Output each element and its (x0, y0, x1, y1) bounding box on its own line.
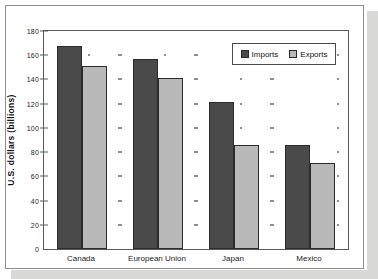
x-axis-tick-label-european-union: European Union (128, 254, 186, 263)
grid-dot (118, 54, 120, 56)
legend-label-exports: Exports (300, 50, 327, 59)
grid-dot (196, 54, 198, 56)
grid-dot (337, 175, 339, 177)
grid-dot (164, 54, 166, 56)
grid-dot (240, 78, 242, 80)
grid-dot (337, 54, 339, 56)
grid-dot (194, 151, 196, 153)
y-axis-tick-mark (40, 127, 48, 128)
grid-dot (118, 127, 120, 129)
y-axis-tick-label: 0 (35, 246, 44, 253)
grid-dot (240, 127, 242, 129)
grid-dot (272, 78, 274, 80)
legend-item-exports: Exports (289, 50, 327, 59)
grid-dot (120, 224, 122, 226)
grid-dot (120, 175, 122, 177)
grid-dot (196, 127, 198, 129)
legend-swatch-exports-icon (289, 50, 297, 58)
y-axis-tick-mark (40, 152, 48, 153)
grid-dot (270, 200, 272, 202)
grid-dot (270, 151, 272, 153)
grid-dot (337, 200, 339, 202)
x-axis-tick-label-mexico: Mexico (296, 254, 321, 263)
bar-mexico-exports (310, 163, 335, 249)
bar-european-union-imports (133, 59, 158, 249)
y-axis-tick-mark (40, 55, 48, 56)
grid-dot (272, 103, 274, 105)
grid-dot (337, 103, 339, 105)
grid-dot (118, 103, 120, 105)
bar-japan-imports (209, 102, 234, 249)
grid-dot (88, 54, 90, 56)
grid-dot (194, 127, 196, 129)
legend-swatch-imports-icon (241, 50, 249, 58)
grid-dot (272, 151, 274, 153)
grid-dot (196, 224, 198, 226)
grid-dot (196, 78, 198, 80)
x-axis-tick-label-japan: Japan (222, 254, 244, 263)
legend: Imports Exports (232, 43, 336, 65)
y-axis-title: U.S. dollars (billions) (6, 94, 16, 185)
y-axis-tick-mark (40, 176, 48, 177)
grid-dot (272, 175, 274, 177)
grid-dot (118, 224, 120, 226)
grid-dot (194, 224, 196, 226)
grid-dot (120, 127, 122, 129)
grid-dot (120, 78, 122, 80)
grid-dot (120, 200, 122, 202)
y-axis-tick-mark (40, 200, 48, 201)
y-axis-tick-mark (40, 31, 48, 32)
grid-dot (196, 151, 198, 153)
grid-dot (240, 103, 242, 105)
bar-japan-exports (234, 145, 259, 249)
y-axis-tick-mark (40, 224, 48, 225)
grid-dot (120, 54, 122, 56)
grid-dot (118, 78, 120, 80)
grid-dot (196, 175, 198, 177)
page-shadow-bottom (11, 270, 378, 279)
grid-dot (194, 175, 196, 177)
bar-mexico-imports (285, 145, 310, 249)
x-axis-tick-label-canada: Canada (67, 254, 95, 263)
grid-dot (270, 175, 272, 177)
grid-dot (118, 200, 120, 202)
grid-dot (272, 127, 274, 129)
grid-dot (120, 103, 122, 105)
bar-european-union-exports (158, 78, 183, 249)
grid-dot (272, 224, 274, 226)
grid-dot (272, 200, 274, 202)
bar-canada-exports (82, 66, 107, 249)
legend-item-imports: Imports (241, 50, 279, 59)
grid-dot (120, 151, 122, 153)
legend-label-imports: Imports (252, 50, 279, 59)
grid-dot (270, 78, 272, 80)
grid-dot (194, 200, 196, 202)
y-axis-tick-mark (40, 103, 48, 104)
grid-dot (270, 127, 272, 129)
figure: U.S. dollars (billions) 0204060801001201… (0, 0, 378, 279)
grid-dot (118, 151, 120, 153)
y-axis-tick-mark (40, 79, 48, 80)
grid-dot (196, 103, 198, 105)
grid-dot (194, 78, 196, 80)
grid-dot (337, 78, 339, 80)
grid-dot (118, 175, 120, 177)
page-shadow-right (367, 11, 378, 279)
grid-dot (337, 224, 339, 226)
bar-canada-imports (57, 46, 82, 249)
grid-dot (194, 54, 196, 56)
grid-dot (337, 151, 339, 153)
grid-dot (270, 224, 272, 226)
grid-dot (196, 200, 198, 202)
grid-dot (270, 103, 272, 105)
grid-dot (194, 103, 196, 105)
grid-dot (337, 127, 339, 129)
